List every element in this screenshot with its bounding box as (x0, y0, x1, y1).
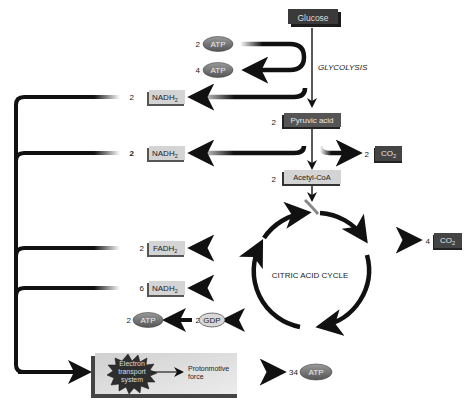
svg-text:NADH2: NADH2 (152, 149, 178, 159)
atp-out-node: 4 ATP (196, 63, 233, 78)
atp-final-count: 34 (289, 368, 298, 377)
bus-branch-fadh (16, 248, 120, 256)
nadh-glycolysis-count: 2 (130, 93, 135, 102)
pmf-label-line1: Protonmotive (188, 365, 229, 372)
acetyl-count: 2 (272, 175, 277, 184)
ets-panel: Electron transport system Protonmotive f… (91, 353, 237, 398)
co2-pyruvate-count: 2 (365, 150, 370, 159)
gdp-node: 2 GDP (196, 313, 225, 327)
nadh-pyruvate-label: NADH (152, 149, 175, 158)
gdp-label: GDP (203, 316, 220, 325)
glucose-box: Glucose (288, 9, 341, 27)
nadh-cycle-node: 6 NADH2 (140, 281, 185, 297)
pyruvic-acid-node: 2 Pyruvic acid (272, 113, 341, 129)
co2-cycle-count: 4 (426, 237, 431, 246)
acetyl-label: Acetyl-CoA (293, 173, 331, 182)
ets-label-line3: system (121, 376, 143, 384)
cycle-arc-top-left (264, 213, 305, 238)
fadh-node: 2 FADH2 (140, 241, 185, 257)
atp-final-label: ATP (309, 368, 324, 377)
bus-branch-nadh2 (16, 153, 120, 161)
glucose-label: Glucose (297, 13, 328, 23)
ets-label-line1: Electron (119, 360, 145, 367)
respiration-diagram: Glucose 2 ATP 4 ATP GLYCOLYSIS 2 NADH2 2… (0, 0, 471, 412)
atp-out-count: 4 (196, 66, 201, 75)
fadh-count: 2 (140, 244, 145, 253)
atp-out-label: ATP (211, 66, 226, 75)
nadh-pyruvate-arrow (196, 146, 304, 153)
atp-in-count: 2 (196, 40, 201, 49)
atp-final-node: 34 ATP (289, 364, 332, 380)
electron-carrier-bus (16, 97, 120, 372)
atp-cycle-count: 2 (127, 316, 132, 325)
cycle-label: CITRIC ACID CYCLE (272, 271, 348, 280)
nadh-pyruvate-node: 2 NADH2 (130, 146, 185, 162)
co2-cycle-label: CO (440, 236, 452, 245)
svg-text:NADH2: NADH2 (152, 284, 178, 294)
pyruvic-count: 2 (272, 118, 277, 127)
nadh-pyruvate-sub: 2 (175, 153, 178, 159)
cycle-arc-left (254, 245, 300, 327)
nadh-pyruvate-count: 2 (130, 149, 135, 158)
nadh-cycle-label: NADH (152, 284, 175, 293)
co2-cycle-node: 4 CO2 (426, 233, 462, 250)
atp-investment-loop (240, 44, 304, 70)
svg-text:FADH2: FADH2 (153, 244, 177, 254)
nadh-cycle-sub: 2 (175, 288, 178, 294)
bus-branch-nadh-cycle (16, 288, 120, 296)
co2-pyruvate-sub: 2 (393, 153, 396, 159)
nadh-glycolysis-label: NADH (152, 93, 175, 102)
glycolysis-label: GLYCOLYSIS (318, 63, 368, 72)
nadh-glycolysis-node: 2 NADH2 (130, 90, 185, 106)
atp-cycle-label: ATP (141, 316, 156, 325)
fadh-label: FADH (153, 244, 175, 253)
ets-label-line2: transport (118, 368, 146, 376)
nadh-glycolysis-sub: 2 (175, 97, 178, 103)
atp-in-node: 2 ATP (196, 37, 233, 52)
atp-in-label: ATP (211, 40, 226, 49)
co2-pyruvate-label: CO (381, 149, 393, 158)
atp-cycle-node: 2 ATP (127, 313, 163, 328)
cycle-arc-right (322, 255, 369, 326)
citric-acid-cycle: CITRIC ACID CYCLE (254, 200, 369, 327)
nadh-glycolysis-arrow (196, 88, 305, 97)
cycle-arc-top-right (320, 213, 364, 238)
nadh-cycle-count: 6 (140, 284, 145, 293)
acetyl-coa-node: 2 Acetyl-CoA (272, 170, 341, 186)
fadh-sub: 2 (174, 248, 177, 254)
pyruvic-label: Pyruvic acid (290, 116, 333, 125)
svg-text:NADH2: NADH2 (152, 93, 178, 103)
co2-pyruvate-node: 2 CO2 (365, 146, 402, 163)
pmf-label-line2: force (188, 373, 204, 380)
co2-cycle-sub: 2 (452, 240, 455, 246)
